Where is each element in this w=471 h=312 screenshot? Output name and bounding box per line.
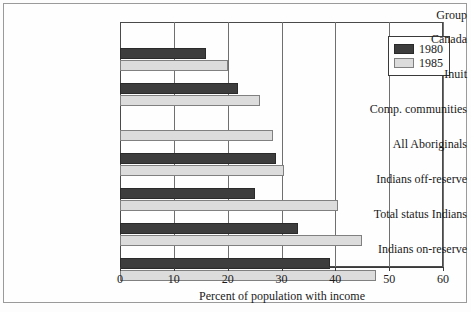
bar-1980-6 <box>120 223 298 234</box>
legend-swatch-1980 <box>394 44 414 54</box>
bar-1980-1 <box>120 48 206 59</box>
x-tick-label-20: 20 <box>213 272 243 286</box>
x-axis-title: Percent of population with income <box>120 289 444 304</box>
category-label-6: Total status Indians <box>353 208 471 221</box>
category-label-4: All Aboriginals <box>353 138 471 151</box>
gridline-40 <box>335 22 336 267</box>
chart-figure: Group Percent of population with income … <box>0 0 471 312</box>
category-label-7: Indians on-reserve <box>353 243 471 256</box>
bar-1985-1 <box>120 60 228 71</box>
legend-swatch-1985 <box>394 58 414 68</box>
category-label-2: Inuit <box>353 68 471 81</box>
bar-1985-3 <box>120 130 273 141</box>
x-tick-label-50: 50 <box>374 272 404 286</box>
category-label-5: Indians off-reserve <box>353 173 471 186</box>
x-tick-label-40: 40 <box>320 272 350 286</box>
category-label-1: Canada <box>353 33 471 46</box>
bar-1980-2 <box>120 83 238 94</box>
bar-1985-4 <box>120 165 284 176</box>
bar-1980-5 <box>120 188 255 199</box>
x-axis-line <box>120 267 444 268</box>
y-axis-title: Group <box>353 8 471 23</box>
x-tick-label-0: 0 <box>105 272 135 286</box>
x-tick-label-30: 30 <box>267 272 297 286</box>
x-tick-label-60: 60 <box>428 272 458 286</box>
bar-1985-5 <box>120 200 338 211</box>
x-tick-label-10: 10 <box>159 272 189 286</box>
bar-1985-2 <box>120 95 260 106</box>
category-label-3: Comp. communities <box>353 103 471 116</box>
bar-1980-4 <box>120 153 276 164</box>
bar-1985-6 <box>120 235 362 246</box>
